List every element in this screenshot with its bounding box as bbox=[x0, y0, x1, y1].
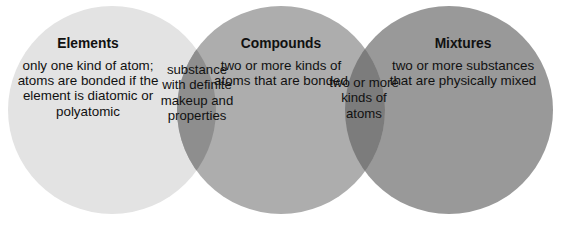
venn-region-elements: Elements only one kind of atom; atoms ar… bbox=[10, 36, 166, 119]
venn-region-mixtures-heading: Mixtures bbox=[384, 36, 542, 52]
venn-region-compounds-heading: Compounds bbox=[207, 36, 355, 52]
venn-region-elements-heading: Elements bbox=[10, 36, 166, 52]
venn-region-mixtures: Mixtures two or more substances that are… bbox=[384, 36, 542, 88]
venn-text-layer: Elements only one kind of atom; atoms ar… bbox=[0, 0, 563, 229]
venn-diagram: Elements only one kind of atom; atoms ar… bbox=[0, 0, 563, 229]
venn-region-mixtures-body: two or more substances that are physical… bbox=[384, 58, 542, 89]
venn-region-elements-body: only one kind of atom; atoms are bonded … bbox=[10, 58, 166, 119]
